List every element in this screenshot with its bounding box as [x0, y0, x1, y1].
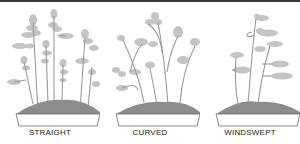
straight-forest-illustration — [0, 2, 100, 144]
curved-forest-illustration — [100, 2, 200, 144]
panel-straight: STRAIGHT — [0, 2, 100, 144]
panel-windswept: WINDSWEPT — [200, 2, 300, 144]
style-label: STRAIGHT — [0, 128, 100, 137]
windswept-forest-illustration — [200, 2, 300, 144]
panel-curved: CURVED — [100, 2, 200, 144]
style-label: CURVED — [100, 128, 200, 137]
style-label: WINDSWEPT — [200, 128, 300, 137]
